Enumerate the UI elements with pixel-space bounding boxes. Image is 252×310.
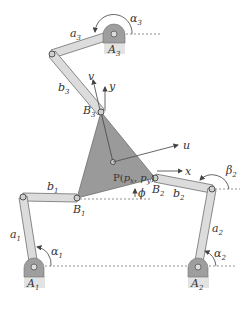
label-B1: B1	[72, 203, 86, 218]
joint-B1	[74, 195, 80, 201]
label-b1: b1	[47, 180, 59, 195]
link-b1	[23, 193, 77, 202]
joint-C2	[209, 186, 215, 192]
label-b2: b2	[173, 187, 185, 202]
link-a1	[19, 196, 38, 268]
joint-C1	[20, 194, 26, 200]
label-B2: B2	[151, 183, 165, 198]
label-a1: a1	[10, 228, 21, 243]
label-alpha1: α1	[51, 245, 63, 260]
label-alpha2: α2	[214, 247, 226, 262]
reference-lines	[45, 34, 240, 266]
label-u: u	[183, 139, 190, 152]
label-y: y	[108, 80, 116, 93]
joint-B3	[98, 109, 104, 115]
label-b3: b3	[58, 81, 70, 96]
joint-C3	[49, 51, 55, 57]
label-a3: a3	[70, 27, 82, 42]
label-v: v	[88, 70, 95, 83]
moving-platform	[77, 112, 155, 198]
label-phi: ϕ	[138, 187, 146, 200]
rrr-manipulator-diagram: α3 a3 A3 b3 v y B3 u x P(px, py) b1 ϕ B2…	[0, 0, 252, 310]
label-a2: a2	[212, 222, 224, 237]
label-alpha3: α3	[130, 12, 142, 27]
label-x: x	[185, 165, 192, 178]
label-beta2: β2	[225, 164, 237, 179]
